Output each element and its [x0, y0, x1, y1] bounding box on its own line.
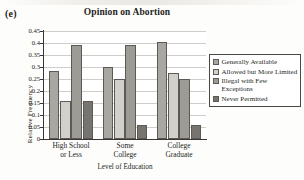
bar: [191, 125, 202, 139]
legend-item-label: Never Permitted: [222, 95, 268, 103]
bar: [71, 45, 82, 139]
x-axis-category-label: CollegeGraduate: [152, 141, 206, 159]
legend-swatch-icon: [213, 78, 219, 84]
y-axis-tick: [40, 55, 44, 56]
y-axis-tick-label: 0.25: [14, 76, 40, 83]
chart-title: Opinion on Abortion: [52, 7, 202, 17]
y-axis-line: [43, 30, 44, 140]
y-axis-tick-label: 0: [14, 136, 40, 143]
legend-item-label: Generally Available: [222, 58, 278, 66]
y-axis-tick: [40, 31, 44, 32]
bar: [179, 79, 190, 139]
legend-item[interactable]: Illegal with Few Exceptions: [213, 77, 298, 93]
y-axis-tick-label: 0.15: [14, 100, 40, 107]
y-axis-tick-label: 0.35: [14, 52, 40, 59]
bar-series-group: [44, 31, 206, 139]
y-axis-tick: [40, 91, 44, 92]
bar: [103, 67, 114, 139]
legend-swatch-icon: [213, 59, 219, 65]
x-axis-category-label: SomeCollege: [98, 141, 152, 159]
plot-area: [44, 31, 206, 139]
chart-figure: (e) Opinion on Abortion Relative Frequen…: [0, 0, 304, 180]
legend-item-label: Allowed but More Limited: [222, 68, 298, 76]
y-axis-tick-label: 0.3: [14, 64, 40, 71]
y-axis-tick: [40, 79, 44, 80]
y-axis-tick: [40, 43, 44, 44]
y-axis-tick-labels: 00.050.10.150.20.250.30.350.40.45: [10, 0, 40, 180]
bar: [114, 79, 125, 139]
y-axis-tick-label: 0.1: [14, 112, 40, 119]
legend-item-label: Illegal with Few Exceptions: [222, 77, 299, 93]
chart-legend: Generally Available Allowed but More Lim…: [209, 54, 301, 107]
y-axis-tick: [40, 139, 44, 140]
y-axis-tick: [40, 127, 44, 128]
bar: [125, 45, 136, 139]
legend-item[interactable]: Generally Available: [213, 58, 298, 66]
bar: [137, 125, 148, 139]
bar: [157, 42, 168, 139]
y-axis-tick: [40, 103, 44, 104]
y-axis-tick-label: 0.45: [14, 28, 40, 35]
y-axis-tick-label: 0.4: [14, 40, 40, 47]
y-axis-tick: [40, 67, 44, 68]
bar: [83, 101, 94, 139]
y-axis-tick: [40, 115, 44, 116]
legend-item[interactable]: Allowed but More Limited: [213, 68, 298, 76]
y-axis-tick-label: 0.2: [14, 88, 40, 95]
y-axis-tick-label: 0.05: [14, 124, 40, 131]
x-axis-category-label: High Schoolor Less: [44, 141, 98, 159]
legend-swatch-icon: [213, 96, 219, 102]
bar: [60, 101, 71, 139]
scan-artifact-band: [0, 0, 304, 5]
bar: [168, 73, 179, 139]
bar: [49, 71, 60, 139]
x-axis-line: [43, 139, 207, 140]
x-axis-title: Level of Education: [44, 163, 206, 171]
legend-item[interactable]: Never Permitted: [213, 95, 298, 103]
legend-swatch-icon: [213, 69, 219, 75]
